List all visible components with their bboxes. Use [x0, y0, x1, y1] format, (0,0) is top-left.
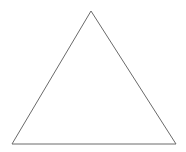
figure-canvas: [0, 0, 186, 152]
triangle-svg: [0, 0, 186, 152]
